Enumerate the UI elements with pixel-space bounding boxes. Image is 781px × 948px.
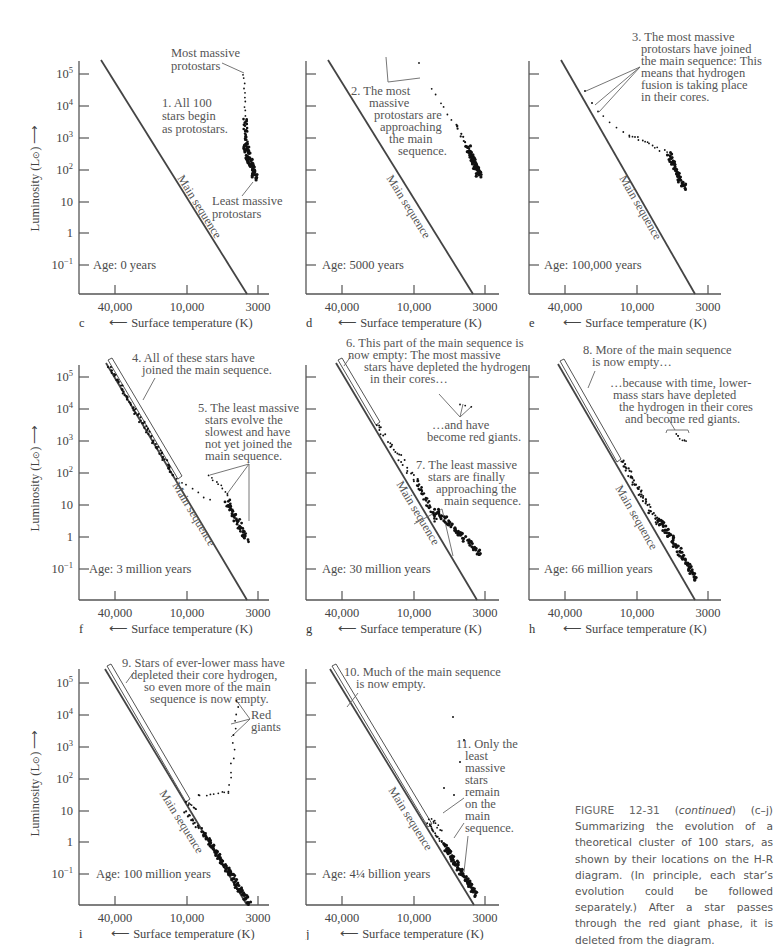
- age-label: Age: 4¼ billion years: [322, 867, 430, 881]
- svg-text:sequence.: sequence.: [398, 144, 447, 158]
- svg-text:10: 10: [61, 195, 74, 209]
- svg-text:main sequence.: main sequence.: [205, 449, 282, 463]
- panel-f: 105 104 103 102 10 1 10−1 Luminosity (L⊙…: [28, 351, 300, 636]
- svg-text:10,000: 10,000: [620, 300, 654, 314]
- panel-letter: i: [79, 927, 83, 940]
- svg-text:40,000: 40,000: [548, 606, 582, 620]
- y-axis-label: Luminosity (L⊙) ⟶: [28, 125, 42, 232]
- panel-letter: h: [529, 622, 536, 636]
- panel-letter: j: [305, 927, 309, 940]
- x-ticks: [115, 591, 258, 600]
- age-label: Age: 30 million years: [322, 562, 431, 576]
- y-axis-label: Luminosity (L⊙) ⟶: [28, 730, 42, 837]
- main-sequence-label: Main sequence: [383, 172, 433, 241]
- svg-text:in their cores.: in their cores.: [641, 90, 709, 104]
- y-ticks: [306, 74, 316, 265]
- y-ticks: [529, 74, 539, 265]
- svg-text:104: 104: [56, 706, 74, 722]
- x-tick-labels: 40,000 10,000 3000: [98, 606, 271, 620]
- panel-d: 40,000 10,000 3000 d ⟵ Surface temperatu…: [306, 57, 499, 330]
- y-ticks: [306, 377, 316, 569]
- svg-text:3000: 3000: [473, 911, 498, 925]
- star-points: [242, 74, 258, 182]
- svg-text:stars begin: stars begin: [162, 109, 217, 123]
- annotations: 8. More of the main sequence is now empt…: [583, 343, 753, 433]
- age-label: Age: 5000 years: [322, 258, 404, 272]
- svg-text:10−1: 10−1: [51, 865, 73, 881]
- svg-text:3000: 3000: [246, 911, 271, 925]
- annotations: 2. The most massive protostars are appro…: [351, 57, 447, 158]
- svg-text:as protostars.: as protostars.: [162, 122, 228, 136]
- svg-text:105: 105: [56, 65, 73, 81]
- svg-text:10,000: 10,000: [170, 911, 204, 925]
- x-ticks: [115, 285, 258, 294]
- svg-text:10,000: 10,000: [620, 606, 654, 620]
- y-tick-labels: 105 104 103 102 10 1 10−1: [51, 65, 73, 272]
- continued-label: continued: [679, 804, 732, 816]
- svg-text:103: 103: [56, 432, 73, 448]
- x-axis-label: ⟵ Surface temperature (K): [111, 927, 255, 940]
- y-ticks: [529, 377, 539, 569]
- panel-g: 40,000 10,000 3000 g ⟵ Surface temperatu…: [306, 336, 529, 636]
- x-ticks: [342, 591, 485, 600]
- x-axis-label: ⟵ Surface temperature (K): [340, 927, 484, 940]
- svg-text:joined the main sequence.: joined the main sequence.: [141, 363, 272, 377]
- panel-i: 105 104 103 102 10 1 10−1 Luminosity (L⊙…: [28, 656, 285, 940]
- x-axis-label: ⟵ Surface temperature (K): [109, 316, 253, 330]
- svg-text:and become red giants.: and become red giants.: [625, 412, 740, 426]
- panel-e: 40,000 10,000 3000 e ⟵ Surface temperatu…: [529, 30, 762, 330]
- y-axis-label: Luminosity (L⊙) ⟶: [28, 425, 42, 532]
- svg-text:10,000: 10,000: [397, 911, 431, 925]
- svg-text:40,000: 40,000: [325, 911, 359, 925]
- svg-text:1: 1: [67, 530, 73, 544]
- svg-text:sequence is now empty.: sequence is now empty.: [150, 692, 269, 706]
- x-ticks: [342, 285, 485, 294]
- svg-text:1: 1: [67, 226, 73, 240]
- empty-ms-bracket: [560, 359, 621, 462]
- svg-text:104: 104: [56, 400, 74, 416]
- svg-text:3000: 3000: [246, 606, 271, 620]
- y-tick-labels: 105 104 103 102 10 1 10−1: [51, 368, 73, 576]
- svg-text:Least massive: Least massive: [212, 194, 283, 208]
- svg-text:10−1: 10−1: [51, 256, 73, 272]
- panel-c: 105 104 103 102 10 1 10−1 Luminosity (L⊙…: [28, 46, 283, 330]
- panel-letter: c: [79, 316, 85, 330]
- svg-text:1. All 100: 1. All 100: [162, 96, 212, 110]
- svg-text:main sequence.: main sequence.: [444, 494, 521, 508]
- x-tick-labels: 40,000 10,000 3000: [98, 911, 271, 925]
- svg-text:105: 105: [56, 368, 73, 384]
- x-tick-labels: 40,000 10,000 3000: [325, 606, 498, 620]
- svg-text:in their cores…: in their cores…: [370, 372, 448, 386]
- svg-text:10: 10: [61, 804, 74, 818]
- age-label: Age: 0 years: [93, 258, 156, 272]
- annotations: Most massive protostars 1. All 100 stars…: [162, 46, 283, 221]
- age-label: Age: 3 million years: [89, 562, 192, 576]
- svg-text:40,000: 40,000: [98, 300, 132, 314]
- svg-text:1: 1: [67, 835, 73, 849]
- annotations: 6. This part of the main sequence is now…: [344, 336, 529, 556]
- main-sequence-label: Main sequence: [169, 479, 218, 548]
- svg-text:10,000: 10,000: [397, 606, 431, 620]
- x-ticks: [565, 285, 708, 294]
- panel-h: 40,000 10,000 3000 h ⟵ Surface temperatu…: [529, 343, 753, 636]
- svg-text:40,000: 40,000: [548, 300, 582, 314]
- svg-text:10−1: 10−1: [51, 560, 73, 576]
- x-tick-labels: 40,000 10,000 3000: [548, 300, 721, 314]
- svg-text:40,000: 40,000: [98, 606, 132, 620]
- svg-text:105: 105: [56, 674, 73, 690]
- main-sequence-label: Main sequence: [612, 483, 660, 553]
- age-label: Age: 66 million years: [544, 562, 653, 576]
- age-label: Age: 100,000 years: [544, 258, 642, 272]
- svg-text:3000: 3000: [246, 300, 271, 314]
- svg-text:102: 102: [56, 161, 73, 177]
- figure-number: FIGURE 12-31: [575, 804, 660, 816]
- svg-text:protostars: protostars: [171, 59, 220, 73]
- svg-text:10,000: 10,000: [397, 300, 431, 314]
- figure-caption: FIGURE 12-31 (continued) (c–j) Summarizi…: [575, 802, 773, 948]
- svg-text:104: 104: [56, 97, 74, 113]
- y-ticks: [79, 683, 89, 874]
- svg-text:is now empty…: is now empty…: [592, 355, 672, 369]
- x-ticks: [565, 591, 708, 600]
- star-points: [584, 90, 687, 191]
- svg-text:10,000: 10,000: [170, 300, 204, 314]
